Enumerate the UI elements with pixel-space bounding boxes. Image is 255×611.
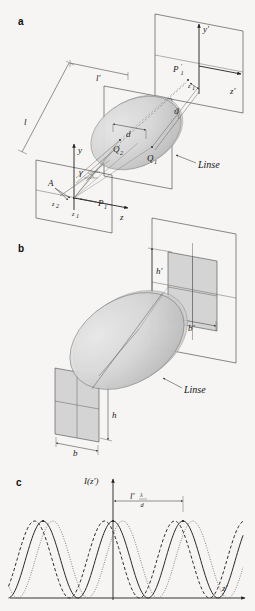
svg-text:P: P bbox=[97, 198, 104, 208]
label-h: h bbox=[112, 410, 117, 420]
svg-text:z: z bbox=[71, 210, 75, 217]
svg-text:Q: Q bbox=[147, 153, 154, 163]
panel-a: a y' z' P 1 ′ z 1 bbox=[18, 14, 243, 233]
curve-dashed bbox=[8, 521, 243, 598]
fringe-spacing-annotation: l' λ d bbox=[114, 491, 183, 512]
svg-text:1: 1 bbox=[104, 203, 107, 210]
label-gamma: γ bbox=[79, 167, 83, 177]
svg-text:2: 2 bbox=[56, 202, 59, 209]
svg-text:2: 2 bbox=[120, 149, 123, 156]
label-z1: z 1 bbox=[71, 210, 79, 219]
panel-a-letter: a bbox=[18, 16, 24, 27]
panel-c-letter: c bbox=[16, 477, 22, 488]
figure-root: a y' z' P 1 ′ z 1 bbox=[0, 0, 255, 611]
label-lprime-lead: l' bbox=[130, 491, 136, 501]
label-theta: ϑ bbox=[174, 106, 179, 116]
label-z2: z 2 bbox=[51, 200, 59, 209]
label-d-den: d bbox=[141, 501, 145, 508]
svg-text:P: P bbox=[172, 64, 179, 74]
label-linse-a: Linse bbox=[197, 159, 220, 170]
label-intensity-axis: I(z') bbox=[83, 476, 98, 486]
svg-text:1: 1 bbox=[181, 69, 184, 76]
label-linse-b: Linse bbox=[183, 384, 206, 395]
panel-c: c I(z') z' l' λ d bbox=[8, 476, 245, 600]
label-lambda-num: λ bbox=[139, 491, 143, 498]
label-z-prime: z' bbox=[229, 86, 237, 96]
peak-marker-center bbox=[112, 520, 114, 522]
svg-text:1: 1 bbox=[76, 212, 79, 219]
label-p1-prime: P 1 ′ bbox=[172, 62, 184, 76]
peak-marker-left bbox=[42, 520, 44, 522]
svg-text:Q: Q bbox=[113, 144, 120, 154]
label-A: A bbox=[47, 178, 54, 188]
svg-text:1: 1 bbox=[154, 158, 157, 165]
lens-a: Linse bbox=[78, 80, 220, 184]
intensity-curves bbox=[8, 521, 243, 598]
svg-text:z: z bbox=[187, 82, 191, 89]
label-y-prime: y' bbox=[202, 24, 210, 34]
label-b: b bbox=[73, 448, 78, 458]
label-z1-prime: z 1 bbox=[187, 82, 195, 91]
peak-marker-right bbox=[182, 520, 184, 522]
label-l: l bbox=[24, 117, 27, 127]
panel-b: b h' b' bbox=[18, 218, 236, 458]
label-z: z bbox=[119, 212, 124, 222]
label-l-prime: l' bbox=[96, 73, 102, 83]
label-y: y bbox=[77, 145, 82, 155]
figure-svg: a y' z' P 1 ′ z 1 bbox=[0, 0, 255, 611]
label-h-prime: h' bbox=[156, 266, 164, 276]
label-b-prime: b' bbox=[188, 323, 196, 333]
svg-text:1: 1 bbox=[192, 84, 195, 91]
label-p1: P 1 bbox=[97, 198, 107, 210]
panel-b-letter: b bbox=[18, 243, 24, 254]
svg-text:z: z bbox=[51, 200, 55, 207]
